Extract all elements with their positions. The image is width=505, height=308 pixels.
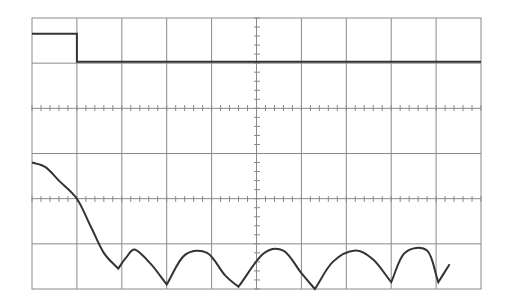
trace-sinc-magnitude-spectrum [32, 163, 450, 290]
chart-plot [0, 0, 505, 308]
oscilloscope-display [0, 0, 505, 308]
